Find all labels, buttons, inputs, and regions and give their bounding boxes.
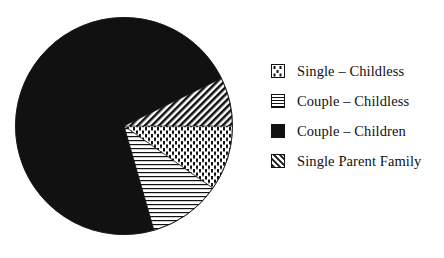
- diagonal-hatch-swatch-icon: [271, 154, 285, 168]
- legend-label: Single – Childless: [297, 63, 404, 79]
- legend-item-single-childless: Single – Childless: [271, 56, 421, 86]
- pie-chart: [0, 0, 250, 258]
- solid-black-swatch-icon: [271, 124, 285, 138]
- legend-label: Couple – Childless: [297, 93, 409, 109]
- legend-item-single-parent-family: Single Parent Family: [271, 146, 421, 176]
- legend: Single – Childless Couple – Childless Co…: [271, 56, 421, 176]
- horizontal-lines-swatch-icon: [271, 94, 285, 108]
- dots-pattern-swatch-icon: [271, 64, 285, 78]
- legend-label: Single Parent Family: [297, 153, 421, 169]
- legend-label: Couple – Children: [297, 123, 406, 139]
- pie-slices: [0, 0, 250, 258]
- legend-item-couple-childless: Couple – Childless: [271, 86, 421, 116]
- legend-item-couple-children: Couple – Children: [271, 116, 421, 146]
